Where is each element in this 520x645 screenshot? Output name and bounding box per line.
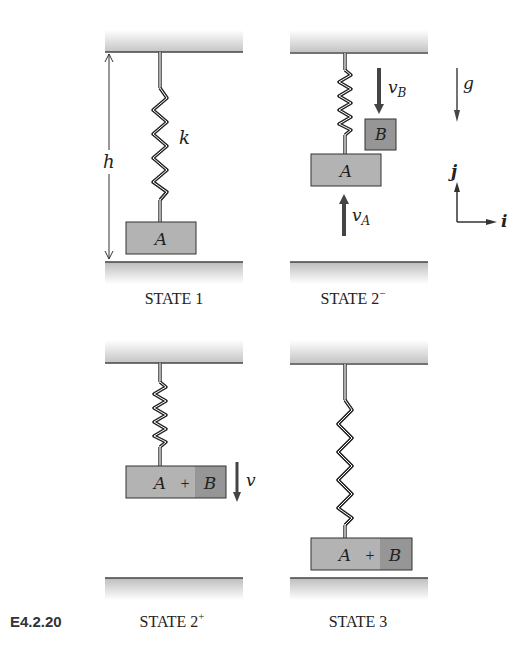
state-caption: STATE 1 — [145, 290, 204, 307]
block-a-label: A — [338, 161, 352, 181]
block-b-label: B — [388, 545, 402, 565]
state-caption: STATE 3 — [329, 613, 388, 630]
floor — [290, 262, 428, 284]
block-b-label: B — [203, 473, 217, 493]
spring — [339, 53, 351, 154]
block-a-label: A — [152, 473, 166, 493]
i-axis-label: i — [501, 211, 507, 231]
velocity-a-label: vA — [352, 205, 371, 228]
ceiling — [105, 30, 243, 52]
spring-constant-label: k — [179, 127, 190, 148]
mechanics-diagram: h k A STATE 1 B — [0, 0, 520, 645]
j-axis-label: j — [448, 161, 458, 181]
ceiling — [105, 340, 243, 363]
ceiling — [290, 340, 428, 363]
state-3: A + B STATE 3 — [290, 340, 428, 630]
plus-sign: + — [180, 475, 189, 492]
plus-sign: + — [365, 547, 374, 564]
state-1: h k A STATE 1 — [101, 30, 243, 307]
ceiling — [290, 30, 428, 52]
legend: g j i — [448, 68, 507, 231]
gravity-label: g — [463, 73, 474, 93]
block-b-label: B — [374, 125, 387, 144]
figure-label: E4.2.20 — [10, 613, 62, 630]
spring — [154, 363, 166, 466]
state-caption: STATE 2− — [321, 287, 386, 307]
state-2-plus: A + B v STATE 2+ — [105, 340, 256, 630]
velocity-b-label: vB — [388, 77, 407, 100]
floor — [290, 578, 428, 600]
velocity-label: v — [246, 470, 256, 490]
state-caption: STATE 2+ — [140, 610, 205, 630]
height-label: h — [103, 151, 115, 172]
block-a-label: A — [153, 229, 167, 249]
floor — [105, 578, 243, 600]
block-a-label: A — [337, 545, 351, 565]
spring — [153, 52, 167, 222]
spring — [338, 364, 352, 538]
floor — [105, 262, 243, 284]
state-2-minus: B A vB vA STATE 2− — [290, 30, 428, 307]
